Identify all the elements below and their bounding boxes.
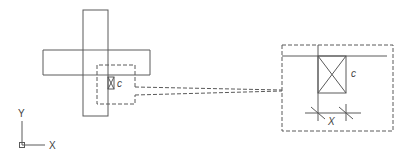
detail-frame	[282, 45, 393, 131]
cad-drawing: c c X Y X	[0, 0, 418, 153]
ucs-y-label: Y	[18, 108, 25, 119]
element-label-small: c	[117, 78, 122, 89]
vertical-member	[83, 10, 108, 116]
detail-view: c X	[282, 45, 393, 131]
dimension-label: X	[327, 116, 335, 127]
element-c-small	[108, 77, 114, 89]
element-c-detail	[318, 56, 346, 93]
ucs-x-label: X	[49, 140, 56, 151]
overview: c	[43, 10, 150, 116]
leader-lines	[135, 87, 282, 95]
ucs-icon: Y X	[18, 108, 56, 151]
element-label-detail: c	[351, 68, 356, 79]
detail-callout-region	[97, 65, 135, 104]
